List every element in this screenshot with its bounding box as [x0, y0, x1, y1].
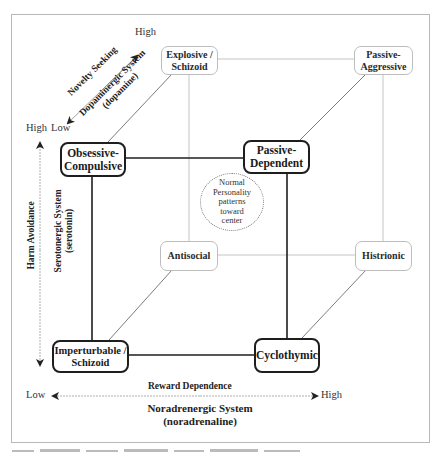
reward-axis-system: Noradrenergic System (noradrenaline) [136, 402, 264, 427]
harm-axis-name: Harm Avoidance [26, 201, 37, 269]
node-passive-aggressive: Passive- Aggressive [354, 46, 413, 75]
harm-neurotransmitter-text: (serotonin) [63, 189, 74, 272]
reward-high-label: High [321, 389, 342, 400]
personality-cube-diagram: Explosive / Schizoid Passive- Aggressive… [0, 0, 437, 454]
cropped-caption [12, 449, 312, 454]
harm-system-text: Serotonergic System [53, 189, 64, 272]
novelty-low-label: Low [51, 122, 70, 133]
node-histrionic: Histrionic [355, 241, 412, 271]
normal-personality-note: Normal Personality patterns toward cente… [200, 173, 264, 231]
reward-neurotransmitter-text: (noradrenaline) [136, 415, 264, 428]
node-explosive-schizoid: Explosive / Schizoid [161, 46, 218, 75]
reward-low-label: Low [26, 389, 45, 400]
node-label: Antisocial [168, 250, 211, 261]
reward-system-text: Noradrenergic System [136, 402, 264, 415]
node-label: Passive- Aggressive [361, 49, 407, 71]
reward-axis-name: Reward Dependence [148, 381, 232, 392]
node-obsessive-compulsive: Obsessive- Compulsive [60, 142, 126, 177]
normal-personality-text: Normal Personality patterns toward cente… [213, 178, 251, 226]
node-label: Imperturbable / Schizoid [54, 345, 126, 369]
harm-axis-system: Serotonergic System (serotonin) [53, 189, 75, 272]
node-cyclothymic: Cyclothymic [254, 338, 320, 373]
harm-high-label: High [26, 122, 47, 133]
novelty-high-label: High [135, 26, 156, 37]
node-antisocial: Antisocial [160, 241, 218, 271]
node-label: Explosive / Schizoid [166, 49, 212, 71]
node-label: Cyclothymic [256, 349, 318, 362]
node-imperturbable-schizoid: Imperturbable / Schizoid [52, 340, 129, 373]
node-label: Obsessive- Compulsive [64, 147, 122, 173]
node-label: Histrionic [362, 250, 405, 261]
node-passive-dependent: Passive- Dependent [243, 140, 310, 174]
node-label: Passive- Dependent [250, 144, 303, 170]
